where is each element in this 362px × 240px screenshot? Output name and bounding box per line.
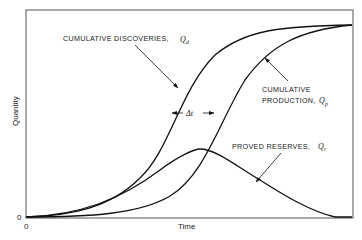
production-curve — [26, 25, 352, 217]
discoveries-label: CUMULATIVE DISCOVERIES, — [63, 34, 169, 43]
production-subscript: p — [324, 101, 328, 107]
hubbert-diagram: CUMULATIVE DISCOVERIES, Q d CUMULATIVE P… — [0, 0, 362, 240]
delta-t-label: Δt — [185, 109, 194, 118]
production-arrow — [265, 58, 288, 81]
production-label-line1: CUMULATIVE — [262, 85, 311, 94]
discoveries-subscript: d — [186, 39, 189, 45]
x-axis-label: Time — [178, 222, 196, 231]
x-zero-label: 0 — [24, 222, 29, 231]
discoveries-arrow — [135, 45, 178, 88]
discoveries-curve — [26, 25, 352, 217]
y-zero-label: 0 — [17, 213, 22, 222]
reserves-curve — [26, 149, 352, 217]
reserves-arrow — [256, 153, 281, 182]
production-label-line2: PRODUCTION, — [262, 96, 316, 105]
reserves-subscript: r — [324, 146, 327, 152]
reserves-label: PROVED RESERVES, — [232, 142, 310, 151]
y-axis-label: Quantity — [11, 96, 20, 126]
